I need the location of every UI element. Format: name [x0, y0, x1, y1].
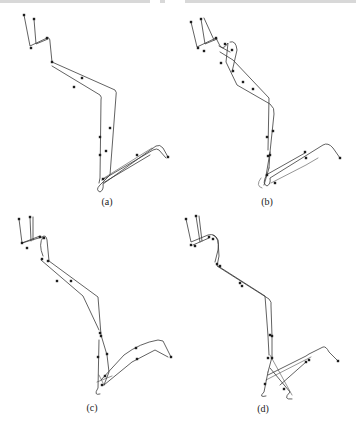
- pipe-clamp-node: [272, 130, 274, 132]
- pipe-segment: [201, 19, 217, 44]
- pipe-segment: [41, 237, 44, 256]
- pipe-clamp-node: [203, 50, 205, 52]
- pipe-clamp-node: [105, 150, 107, 152]
- pipe-clamp-node: [304, 151, 306, 153]
- pipe-segment: [24, 15, 168, 192]
- pipe-clamp-node: [242, 81, 244, 83]
- pipe-clamp-node: [21, 242, 23, 244]
- pipe-clamp-node: [194, 245, 196, 247]
- pipe-segment: [96, 340, 100, 394]
- pipe-clamp-node: [232, 70, 234, 72]
- pipe-clamp-node: [99, 332, 101, 334]
- pipe-segment: [193, 238, 209, 245]
- pipe-clamp-node: [220, 62, 222, 64]
- pipe-clamp-node: [56, 280, 58, 282]
- pipe-clamp-node: [283, 388, 285, 390]
- pipe-clamp-node: [269, 154, 271, 156]
- panel-a: [23, 14, 169, 192]
- pipe-clamp-node: [167, 156, 169, 158]
- pipe-clamp-node: [109, 127, 111, 129]
- pipe-clamp-node: [136, 358, 138, 360]
- pipe-segment: [41, 260, 99, 330]
- pipe-clamp-node: [29, 216, 31, 218]
- pipe-clamp-node: [46, 37, 48, 39]
- pipe-clamp-node: [39, 236, 41, 238]
- panel-label-c: (c): [86, 402, 97, 413]
- pipe-clamp-node: [271, 335, 273, 337]
- pipe-routing-figure: [0, 0, 356, 425]
- pipe-clamp-node: [197, 47, 199, 49]
- pipe-clamp-node: [23, 14, 25, 16]
- pipe-clamp-node: [264, 383, 266, 385]
- pipe-segment: [104, 350, 168, 385]
- panel-label-b: (b): [261, 196, 273, 207]
- pipe-segment: [230, 42, 237, 72]
- pipe-clamp-node: [99, 154, 101, 156]
- pipe-clamp-node: [224, 43, 226, 45]
- pipe-clamp-node: [43, 237, 45, 239]
- pipe-clamp-node: [100, 335, 102, 337]
- pipe-clamp-node: [219, 265, 221, 267]
- pipe-clamp-node: [18, 218, 20, 220]
- pipe-segment: [220, 52, 269, 150]
- pipe-segment: [30, 217, 31, 241]
- pipe-segment: [103, 155, 150, 183]
- pipe-clamp-node: [97, 356, 99, 358]
- pipe-clamp-node: [337, 360, 339, 362]
- pipe-clamp-node: [215, 37, 217, 39]
- pipe-clamp-node: [274, 182, 276, 184]
- pipe-clamp-node: [170, 356, 172, 358]
- pipe-segment: [52, 66, 101, 183]
- panel-label-d: (d): [257, 403, 269, 414]
- pipe-segment: [266, 153, 305, 175]
- pipe-segment: [258, 178, 262, 188]
- pipe-clamp-node: [271, 357, 273, 359]
- pipe-segment: [34, 19, 48, 44]
- pipe-clamp-node: [200, 18, 202, 20]
- pipe-clamp-node: [33, 18, 35, 20]
- pipe-clamp-node: [136, 154, 138, 156]
- pipe-clamp-node: [305, 157, 307, 159]
- pipe-clamp-node: [339, 157, 341, 159]
- pipe-segment: [186, 219, 272, 372]
- pipe-clamp-node: [135, 347, 137, 349]
- pipe-segment: [264, 144, 340, 186]
- panel-b: [190, 18, 341, 188]
- pipe-clamp-node: [267, 357, 269, 359]
- pipe-clamp-node: [308, 359, 310, 361]
- pipe-clamp-node: [51, 61, 53, 63]
- panel-label-a: (a): [101, 196, 112, 207]
- pipe-clamp-node: [81, 77, 83, 79]
- pipe-clamp-node: [41, 258, 43, 260]
- pipe-clamp-node: [99, 136, 101, 138]
- pipe-clamp-node: [106, 353, 108, 355]
- pipe-segment: [204, 18, 214, 40]
- pipe-clamp-node: [104, 375, 106, 377]
- pipe-clamp-node: [26, 247, 28, 249]
- pipe-segment: [271, 158, 318, 183]
- pipe-clamp-node: [195, 215, 197, 217]
- pipe-clamp-node: [305, 361, 307, 363]
- pipe-clamp-node: [70, 280, 72, 282]
- pipe-segment: [280, 362, 306, 385]
- pipe-clamp-node: [185, 218, 187, 220]
- panel-d: [185, 215, 339, 399]
- pipe-clamp-node: [190, 21, 192, 23]
- pipe-clamp-node: [266, 174, 268, 176]
- pipe-clamp-node: [266, 136, 268, 138]
- pipe-clamp-node: [241, 285, 243, 287]
- pipe-clamp-node: [73, 86, 75, 88]
- pipe-clamp-node: [47, 260, 49, 262]
- pipe-clamp-node: [30, 47, 32, 49]
- pipe-clamp-node: [101, 384, 103, 386]
- pipe-clamp-node: [212, 238, 214, 240]
- pipe-clamp-node: [231, 49, 233, 51]
- pipe-clamp-node: [216, 263, 218, 265]
- panel-c: [18, 216, 172, 395]
- pipe-clamp-node: [208, 236, 210, 238]
- pipe-segment: [264, 168, 269, 185]
- pipe-clamp-node: [239, 282, 241, 284]
- pipe-clamp-node: [190, 244, 192, 246]
- pipe-segment: [19, 219, 109, 385]
- pipe-segment: [218, 266, 269, 355]
